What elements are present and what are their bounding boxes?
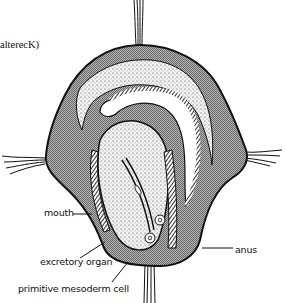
label-anus: anus — [235, 244, 257, 255]
right-tuft — [244, 150, 282, 166]
apical-tuft — [134, 0, 143, 45]
label-excretory-organ: excretory organ — [40, 256, 112, 267]
figure-caption-fragment: alterecK) — [0, 39, 39, 50]
label-mouth: mouth — [44, 207, 74, 218]
label-primitive-mesoderm-cell: primitive mesoderm cell — [18, 283, 129, 294]
left-tuft — [2, 156, 45, 174]
bottom-tuft — [144, 262, 155, 303]
